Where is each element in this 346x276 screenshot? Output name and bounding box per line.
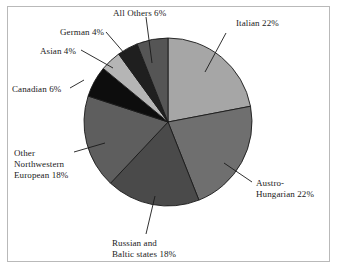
- pie-label-canadian: Canadian 6%: [12, 84, 61, 95]
- pie-label-russian-baltic-line2: Baltic states 18%: [112, 249, 176, 259]
- pie-label-all-others: All Others 6%: [113, 8, 166, 19]
- pie-label-other-northwestern-european: OtherNorthwesternEuropean 18%: [14, 148, 68, 181]
- pie-svg: [0, 0, 346, 276]
- leader-line-asian: [81, 50, 113, 68]
- pie-chart-figure: Italian 22% Austro-Hungarian 22% Russian…: [0, 0, 346, 276]
- chart-plot-area: Italian 22% Austro-Hungarian 22% Russian…: [0, 0, 346, 276]
- pie-slice-group: [84, 38, 252, 206]
- pie-label-asian: Asian 4%: [40, 46, 76, 57]
- pie-label-austro-hungarian: Austro-Hungarian 22%: [256, 178, 314, 200]
- leader-line-canadian: [70, 80, 84, 88]
- pie-label-other-northwestern-european-line1: Other: [14, 148, 35, 158]
- pie-label-canadian-line1: Canadian 6%: [12, 84, 61, 94]
- leader-line-german: [106, 32, 125, 54]
- pie-label-russian-baltic: Russian andBaltic states 18%: [112, 238, 176, 260]
- pie-label-german-line1: German 4%: [60, 27, 104, 37]
- pie-label-italian-line1: Italian 22%: [236, 18, 279, 28]
- pie-label-austro-hungarian-line1: Austro-: [256, 178, 284, 188]
- pie-label-other-northwestern-european-line3: European 18%: [14, 170, 68, 180]
- pie-label-asian-line1: Asian 4%: [40, 46, 76, 56]
- pie-label-other-northwestern-european-line2: Northwestern: [14, 159, 64, 169]
- pie-label-austro-hungarian-line2: Hungarian 22%: [256, 189, 314, 199]
- pie-label-italian: Italian 22%: [236, 18, 279, 29]
- pie-label-german: German 4%: [60, 27, 104, 38]
- pie-label-all-others-line1: All Others 6%: [113, 8, 166, 18]
- pie-label-russian-baltic-line1: Russian and: [112, 238, 157, 248]
